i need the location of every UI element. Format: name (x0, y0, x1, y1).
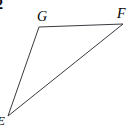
vertex-label-f: F (117, 7, 126, 21)
vertex-label-e: E (0, 114, 5, 127)
triangle-outline (8, 24, 123, 116)
geometry-figure: 2 G F E (0, 0, 128, 127)
triangle-diagram (0, 0, 128, 127)
vertex-label-g: G (37, 10, 47, 24)
